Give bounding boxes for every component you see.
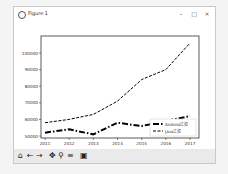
- y-tick-label: 50000: [25, 134, 39, 139]
- back-icon[interactable]: ←: [27, 151, 34, 161]
- configure-subplots-icon[interactable]: ≡: [67, 151, 74, 161]
- figure-window: Figure 1 – □ × 5000060000700008000090000…: [13, 6, 216, 164]
- y-tick-label: 100000: [22, 51, 38, 56]
- x-tick-label: 2017: [185, 141, 196, 146]
- pan-icon[interactable]: ✥: [49, 151, 56, 161]
- x-tick-label: 2013: [88, 141, 99, 146]
- y-tick-label: 60000: [25, 117, 39, 122]
- navigation-toolbar: ⌂←→✥⚲≡▣: [14, 149, 215, 163]
- legend-label: Android工资: [165, 121, 188, 127]
- y-tick-label: 70000: [25, 100, 39, 105]
- y-tick-label: 90000: [25, 67, 39, 72]
- legend-label: Java工资: [164, 128, 181, 134]
- save-icon[interactable]: ▣: [80, 151, 88, 161]
- series-line: [45, 43, 190, 123]
- x-tick-label: 2016: [160, 141, 171, 146]
- y-tick-label: 80000: [25, 84, 39, 89]
- zoom-icon[interactable]: ⚲: [58, 151, 64, 161]
- forward-icon[interactable]: →: [36, 151, 43, 161]
- line-chart: 5000060000700008000090000100000201120122…: [14, 7, 217, 151]
- x-tick-label: 2011: [40, 141, 51, 146]
- x-tick-label: 2012: [64, 141, 75, 146]
- x-tick-label: 2014: [112, 141, 123, 146]
- x-tick-label: 2015: [136, 141, 147, 146]
- home-icon[interactable]: ⌂: [18, 151, 23, 161]
